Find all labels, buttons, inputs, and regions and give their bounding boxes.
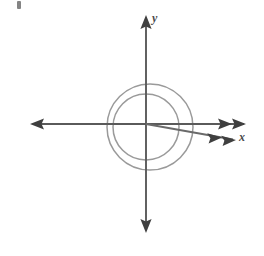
figure-canvas bbox=[0, 0, 264, 256]
spiral-curve-group bbox=[107, 84, 193, 170]
terminal-ray-inner-arrowhead bbox=[207, 133, 222, 143]
y-axis-label: y bbox=[152, 12, 157, 24]
polar-spiral-figure: y x bbox=[0, 0, 264, 256]
outer-loop-curve bbox=[107, 84, 193, 170]
x-axis-group bbox=[30, 118, 246, 129]
x-axis-label: x bbox=[239, 131, 245, 143]
terminal-ray-arrowhead bbox=[221, 136, 236, 146]
